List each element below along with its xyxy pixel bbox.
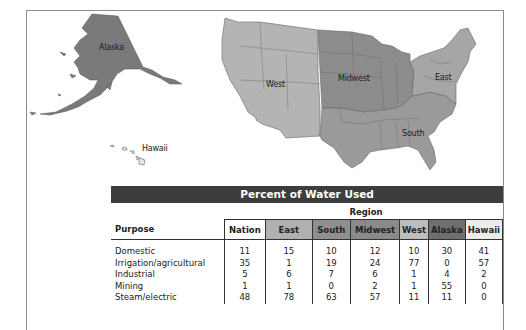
table-row: Mining 1 1 0 2 1 55 0 [111, 281, 503, 293]
alaska-cell: 4 [429, 269, 466, 281]
header-alaska: Alaska [429, 220, 466, 240]
header-west: West [400, 220, 429, 240]
south-cell: 7 [312, 269, 351, 281]
midwest-cell: 12 [351, 246, 400, 258]
hawaii-cell: 0 [465, 292, 502, 304]
west-cell: 1 [400, 281, 429, 293]
east-cell: 6 [266, 269, 312, 281]
hawaii-label: Hawaii [142, 144, 168, 153]
nation-cell: 48 [224, 292, 266, 304]
midwest-cell: 24 [351, 258, 400, 270]
east-region [410, 28, 476, 104]
east-cell: 15 [266, 246, 312, 258]
region-heading: Region [111, 203, 503, 219]
hawaii-cell: 2 [465, 269, 502, 281]
table-row: Industrial 5 6 7 6 1 4 2 [111, 269, 503, 281]
midwest-cell: 57 [351, 292, 400, 304]
east-cell: 1 [266, 281, 312, 293]
midwest-region [318, 30, 414, 112]
purpose-cell: Steam/electric [111, 292, 224, 304]
alaska-shape [30, 14, 182, 115]
east-cell: 78 [266, 292, 312, 304]
header-south: South [312, 220, 351, 240]
midwest-label: Midwest [338, 74, 370, 83]
nation-cell: 11 [224, 246, 266, 258]
nation-cell: 35 [224, 258, 266, 270]
west-cell: 77 [400, 258, 429, 270]
table-title: Percent of Water Used [111, 186, 503, 203]
midwest-cell: 2 [351, 281, 400, 293]
west-cell: 11 [400, 292, 429, 304]
south-label: South [402, 129, 424, 138]
header-nation: Nation [224, 220, 266, 240]
alaska-cell: 0 [429, 258, 466, 270]
west-label: West [266, 80, 285, 89]
water-use-table: Percent of Water Used Region Purpose Nat… [111, 186, 503, 304]
south-cell: 19 [312, 258, 351, 270]
hawaii-cell: 41 [465, 246, 502, 258]
table-row: Steam/electric 48 78 63 57 11 11 0 [111, 292, 503, 304]
east-cell: 1 [266, 258, 312, 270]
alaska-label: Alaska [99, 43, 124, 52]
midwest-cell: 6 [351, 269, 400, 281]
us-regions-map [0, 0, 526, 190]
table-row: Irrigation/agricultural 35 1 19 24 77 0 … [111, 258, 503, 270]
header-midwest: Midwest [351, 220, 400, 240]
hawaii-cell: 57 [465, 258, 502, 270]
nation-cell: 5 [224, 269, 266, 281]
alaska-cell: 30 [429, 246, 466, 258]
south-cell: 10 [312, 246, 351, 258]
hawaii-shape [110, 145, 145, 165]
header-hawaii: Hawaii [465, 220, 502, 240]
table-row: Domestic 11 15 10 12 10 30 41 [111, 246, 503, 258]
alaska-cell: 11 [429, 292, 466, 304]
east-label: East [435, 73, 451, 82]
west-cell: 10 [400, 246, 429, 258]
hawaii-cell: 0 [465, 281, 502, 293]
west-cell: 1 [400, 269, 429, 281]
purpose-cell: Mining [111, 281, 224, 293]
purpose-cell: Irrigation/agricultural [111, 258, 224, 270]
purpose-cell: Industrial [111, 269, 224, 281]
alaska-cell: 55 [429, 281, 466, 293]
south-cell: 63 [312, 292, 351, 304]
nation-cell: 1 [224, 281, 266, 293]
west-region [222, 18, 320, 138]
purpose-cell: Domestic [111, 246, 224, 258]
header-purpose: Purpose [111, 220, 224, 240]
header-east: East [266, 220, 312, 240]
south-cell: 0 [312, 281, 351, 293]
